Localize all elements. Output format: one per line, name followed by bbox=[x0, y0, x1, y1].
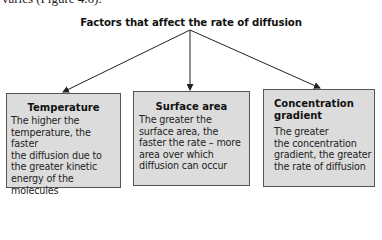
text-line: the concentration bbox=[274, 138, 374, 150]
temperature-box: Temperature The higher the temperature, … bbox=[6, 93, 121, 188]
text-line: gradient, the greater bbox=[274, 149, 374, 161]
arrow-to-concentration-gradient bbox=[190, 30, 320, 88]
temperature-description: The higher the temperature, the faster t… bbox=[11, 115, 120, 196]
text-line: The greater the bbox=[139, 114, 249, 126]
text-line: The greater bbox=[274, 126, 374, 138]
text-line: the diffusion due to bbox=[11, 150, 120, 162]
concentration-gradient-box: Concentration gradient The greater the c… bbox=[263, 89, 375, 187]
heading-line: Concentration bbox=[274, 98, 374, 110]
surface-area-description: The greater the surface area, the faster… bbox=[139, 114, 249, 172]
text-line: faster the rate – more bbox=[139, 137, 249, 149]
text-line: surface area, the bbox=[139, 126, 249, 138]
text-line: the greater kinetic bbox=[11, 161, 120, 173]
arrow-to-temperature bbox=[63, 30, 190, 92]
surface-area-heading: Surface area bbox=[139, 101, 249, 113]
heading-line: gradient bbox=[274, 110, 374, 122]
text-line: area over which bbox=[139, 149, 249, 161]
concentration-gradient-heading: Concentration gradient bbox=[274, 98, 374, 122]
surface-area-box: Surface area The greater the surface are… bbox=[133, 91, 250, 186]
temperature-heading: Temperature bbox=[11, 102, 120, 114]
text-line: diffusion can occur bbox=[139, 160, 249, 172]
text-line: energy of the molecules bbox=[11, 173, 120, 196]
text-line: temperature, the faster bbox=[11, 127, 120, 150]
text-line: The higher the bbox=[11, 115, 120, 127]
text-line: the rate of diffusion bbox=[274, 161, 374, 173]
concentration-gradient-description: The greater the concentration gradient, … bbox=[274, 126, 374, 172]
